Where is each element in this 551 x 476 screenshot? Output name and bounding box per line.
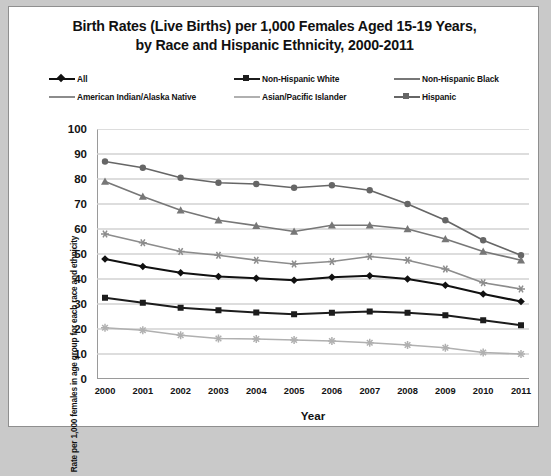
series-line: [105, 298, 521, 326]
square-data-point: [291, 311, 297, 317]
y-tick-70: 70: [53, 198, 87, 210]
y-tick-80: 80: [53, 173, 87, 185]
chart-title: Birth Rates (Live Births) per 1,000 Fema…: [9, 17, 540, 55]
star-data-point: [214, 252, 222, 259]
diamond-data-point: [442, 281, 450, 289]
star-data-point: [404, 257, 412, 264]
x-tick-2010: 2010: [473, 386, 494, 396]
series-line: [105, 259, 521, 302]
asterisk-data-point: [366, 339, 374, 347]
diamond-data-point: [252, 274, 260, 282]
chart-title-line-2: by Race and Hispanic Ethnicity, 2000-201…: [9, 36, 540, 55]
y-tick-0: 0: [53, 373, 87, 385]
asterisk-data-point: [441, 344, 449, 352]
asterisk-data-point: [252, 335, 260, 343]
x-axis-tick-labels: 2000200120022003200420052006200720082009…: [97, 386, 529, 402]
x-tick-2003: 2003: [208, 386, 229, 396]
x-tick-2008: 2008: [397, 386, 418, 396]
legend-item-all[interactable]: All: [49, 73, 87, 84]
diamond-data-point: [101, 255, 109, 263]
circle-data-point: [102, 158, 108, 164]
legend-label: All: [77, 74, 87, 84]
asterisk-data-point: [177, 331, 185, 339]
y-tick-100: 100: [53, 123, 87, 135]
plot-series-layer: [97, 129, 529, 379]
diamond-data-point: [139, 263, 147, 271]
chart-legend: AllNon-Hispanic WhiteNon-Hispanic BlackA…: [49, 73, 519, 109]
legend-label: Asian/Pacific Islander: [262, 92, 346, 102]
diamond-marker-icon: [49, 73, 75, 84]
x-tick-2002: 2002: [170, 386, 191, 396]
circle-data-point: [404, 201, 410, 207]
series-american-indian-alaska-native: [101, 231, 525, 293]
asterisk-data-point: [479, 349, 487, 357]
y-tick-50: 50: [53, 248, 87, 260]
star-data-point: [101, 231, 109, 238]
x-tick-2011: 2011: [511, 386, 531, 396]
legend-label: Hispanic: [422, 92, 456, 102]
series-line: [105, 234, 521, 289]
y-tick-30: 30: [53, 298, 87, 310]
square-data-point: [140, 300, 146, 306]
legend-item-non-hispanic-white[interactable]: Non-Hispanic White: [234, 73, 339, 84]
star-data-point: [441, 266, 449, 273]
square-data-point: [215, 307, 221, 313]
diamond-data-point: [290, 276, 298, 284]
x-axis-title: Year: [97, 409, 529, 422]
square-marker-icon: [234, 73, 260, 84]
legend-label: American Indian/Alaska Native: [77, 92, 196, 102]
legend-label: Non-Hispanic Black: [422, 74, 499, 84]
star-data-point: [328, 258, 336, 265]
legend-label: Non-Hispanic White: [262, 74, 339, 84]
diamond-data-point: [177, 269, 185, 277]
chart-title-line-1: Birth Rates (Live Births) per 1,000 Fema…: [9, 17, 540, 36]
star-data-point: [517, 286, 525, 293]
square-data-point: [329, 310, 335, 316]
asterisk-marker-icon: [394, 73, 420, 84]
legend-item-non-hispanic-black[interactable]: Non-Hispanic Black: [394, 73, 499, 84]
y-tick-10: 10: [53, 348, 87, 360]
asterisk-data-point: [101, 324, 109, 332]
series-non-hispanic-white: [102, 295, 524, 329]
legend-item-hispanic[interactable]: Hispanic: [394, 91, 456, 102]
series-non-hispanic-black: [101, 178, 525, 264]
legend-item-asian-pacific-islander[interactable]: Asian/Pacific Islander: [234, 91, 346, 102]
asterisk-data-point: [517, 350, 525, 358]
x-tick-2004: 2004: [246, 386, 267, 396]
x-tick-2000: 2000: [95, 386, 116, 396]
asterisk-data-point: [404, 341, 412, 349]
square-data-point: [442, 312, 448, 318]
legend-item-american-indian-alaska-native[interactable]: American Indian/Alaska Native: [49, 91, 196, 102]
series-line: [105, 328, 521, 354]
star-data-point: [290, 261, 298, 268]
star-data-point: [139, 239, 147, 246]
square-data-point: [405, 310, 411, 316]
x-tick-2009: 2009: [435, 386, 456, 396]
plot-area: [89, 121, 529, 380]
y-tick-90: 90: [53, 148, 87, 160]
asterisk-data-point: [214, 335, 222, 343]
x-tick-2006: 2006: [322, 386, 343, 396]
asterisk-marker-icon: [234, 91, 260, 102]
y-tick-20: 20: [53, 323, 87, 335]
diamond-data-point: [404, 275, 412, 283]
square-data-point: [253, 310, 259, 316]
x-tick-2005: 2005: [284, 386, 305, 396]
square-data-point: [178, 305, 184, 311]
x-tick-2007: 2007: [359, 386, 380, 396]
circle-data-point: [442, 217, 448, 223]
star-data-point: [479, 279, 487, 286]
asterisk-data-point: [139, 326, 147, 334]
square-data-point: [102, 295, 108, 301]
circle-data-point: [253, 181, 259, 187]
series-line: [105, 162, 521, 256]
asterisk-data-point: [290, 336, 298, 344]
square-data-point: [367, 309, 373, 315]
y-tick-40: 40: [53, 273, 87, 285]
diamond-data-point: [479, 290, 487, 298]
circle-data-point: [367, 187, 373, 193]
square-data-point: [518, 322, 524, 328]
star-marker-icon: [49, 91, 75, 102]
square-marker-icon: [394, 91, 420, 102]
circle-data-point: [140, 165, 146, 171]
